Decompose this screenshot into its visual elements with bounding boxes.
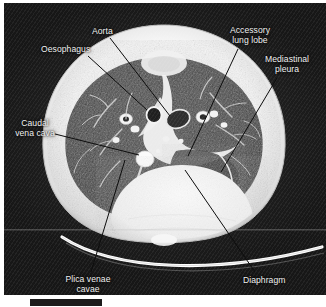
label-accessory-lung-lobe: Accessory lung lobe — [227, 25, 273, 45]
label-diaphragm-line-1: Diaphragm — [243, 275, 285, 285]
page-gutter-top — [0, 0, 326, 3]
label-mediastinal-pleura: Mediastinal pleura — [261, 54, 313, 74]
figure-number-badge — [30, 299, 102, 306]
label-caudal-vena-cava-line-1: Caudal — [12, 118, 58, 128]
label-oesophagus: Oesophagus — [41, 44, 90, 54]
gantry-line-lower — [4, 230, 326, 231]
label-mediastinal-pleura-line-1: Mediastinal — [261, 54, 313, 64]
label-diaphragm: Diaphragm — [243, 275, 285, 285]
label-aorta-line-1: Aorta — [92, 26, 113, 36]
label-caudal-vena-cava-line-2: vena cava — [12, 128, 58, 138]
oesophagus-structure — [147, 107, 162, 123]
caudal-vena-cava-structure — [136, 151, 154, 167]
label-plica-venae-cavae-line-2: cavae — [60, 284, 116, 294]
label-plica-venae-cavae-line-1: Plica venae — [60, 274, 116, 284]
figure-caption-strip — [0, 295, 326, 307]
label-mediastinal-pleura-line-2: pleura — [261, 64, 313, 74]
label-plica-venae-cavae: Plica venae cavae — [60, 274, 116, 294]
label-accessory-lung-lobe-line-2: lung lobe — [227, 35, 273, 45]
label-oesophagus-line-1: Oesophagus — [41, 44, 90, 54]
scanner-couch — [62, 237, 324, 271]
ct-figure: Oesophagus Aorta Accessory lung lobe Med… — [0, 0, 326, 307]
sternum — [151, 234, 177, 246]
label-accessory-lung-lobe-line-1: Accessory — [227, 25, 273, 35]
label-caudal-vena-cava: Caudal vena cava — [12, 118, 58, 138]
vertebral-body — [141, 50, 187, 76]
label-aorta: Aorta — [92, 26, 113, 36]
page-gutter-left — [0, 0, 4, 307]
